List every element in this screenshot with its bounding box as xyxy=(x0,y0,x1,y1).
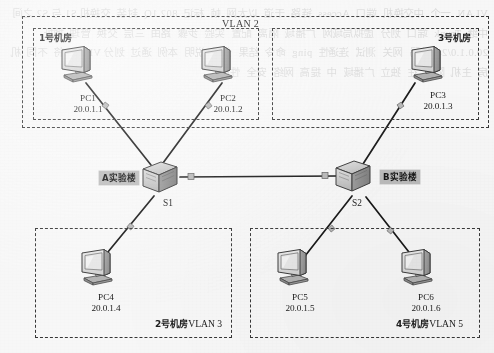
pc6-ip: 20.0.1.6 xyxy=(398,303,454,314)
network-topology-diagram: VLAN 一个 中交换机 端口 Access 链路 干道 以太网 帧 标记 80… xyxy=(0,0,494,353)
room2-name: 2号机房 xyxy=(155,319,188,329)
pc5-ip: 20.0.1.5 xyxy=(272,303,328,314)
link-s1-s2-trunk xyxy=(180,176,337,177)
region-label-room1: 1号机房 xyxy=(39,33,72,44)
pc2-name: PC2 xyxy=(200,93,256,104)
pc2-label: PC2 20.0.1.2 xyxy=(200,93,256,115)
s1-label: S1 xyxy=(163,198,173,208)
pc6-label: PC6 20.0.1.6 xyxy=(398,292,454,314)
pc5-label: PC5 20.0.1.5 xyxy=(272,292,328,314)
pc6-name: PC6 xyxy=(398,292,454,303)
pc4-label: PC4 20.0.1.4 xyxy=(78,292,134,314)
pc3-label: PC3 20.0.1.3 xyxy=(410,90,466,112)
room4-vlan: VLAN 5 xyxy=(429,318,463,329)
pc4-name: PC4 xyxy=(78,292,134,303)
building-tag-a: A实验楼 xyxy=(99,171,139,185)
region-label-room2: 2号机房VLAN 3 xyxy=(155,318,222,330)
pc3-ip: 20.0.1.3 xyxy=(410,101,466,112)
room2-vlan: VLAN 3 xyxy=(188,318,222,329)
pc3-name: PC3 xyxy=(410,90,466,101)
region-label-room3: 3号机房 xyxy=(438,33,471,44)
pc5-name: PC5 xyxy=(272,292,328,303)
s1-icon[interactable] xyxy=(143,162,177,192)
pc2-ip: 20.0.1.2 xyxy=(200,104,256,115)
region-label-vlan2: VLAN 2 xyxy=(222,18,259,29)
pc4-ip: 20.0.1.4 xyxy=(78,303,134,314)
s2-icon[interactable] xyxy=(336,161,370,191)
building-tag-b: B实验楼 xyxy=(380,170,420,184)
pc1-name: PC1 xyxy=(60,93,116,104)
pc1-label: PC1 20.0.1.1 xyxy=(60,93,116,115)
room4-name: 4号机房 xyxy=(396,319,429,329)
pc1-ip: 20.0.1.1 xyxy=(60,104,116,115)
s2-label: S2 xyxy=(352,198,362,208)
region-label-room4: 4号机房VLAN 5 xyxy=(396,318,463,330)
